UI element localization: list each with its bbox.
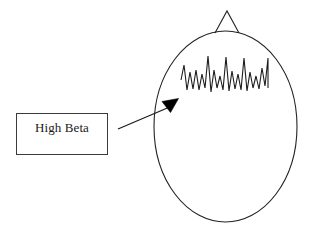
annotation-arrow-head-icon xyxy=(162,99,179,113)
annotation-label-text: High Beta xyxy=(17,120,107,135)
annotation-label-box: High Beta xyxy=(16,113,108,155)
diagram-canvas: High Beta xyxy=(0,0,310,234)
nose-triangle xyxy=(215,11,239,33)
annotation-arrow-shaft xyxy=(118,106,172,129)
eeg-waveform-trace xyxy=(181,56,268,92)
